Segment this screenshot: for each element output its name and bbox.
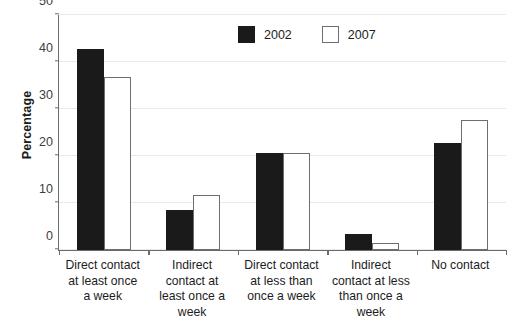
bar-group xyxy=(434,15,488,250)
bar-group xyxy=(77,15,131,250)
x-axis-label-2: Indirectcontact atleast once aweek xyxy=(147,258,236,320)
x-tick-mark xyxy=(59,250,60,255)
filled-square-icon xyxy=(238,26,255,43)
y-tick-label: 10 xyxy=(39,182,53,196)
bar-2002-3 xyxy=(256,153,283,250)
bar-2002-4 xyxy=(345,234,372,250)
bar-2007-5 xyxy=(461,120,488,250)
hollow-square-icon xyxy=(322,26,339,43)
bar-group xyxy=(345,15,399,250)
y-axis-title: Percentage xyxy=(18,0,36,250)
bar-2007-3 xyxy=(283,153,310,250)
bar-2007-4 xyxy=(372,243,399,250)
x-tick-mark xyxy=(506,250,507,255)
legend-label: 2007 xyxy=(348,28,376,42)
x-tick-mark xyxy=(238,250,239,255)
y-tick-label: 20 xyxy=(39,135,53,149)
bar-group xyxy=(256,15,310,250)
bars-layer xyxy=(59,15,506,250)
x-axis-label-5: No contact xyxy=(416,258,505,274)
legend: 20022007 xyxy=(238,26,376,43)
plot-area: 01020304050 xyxy=(58,15,506,251)
bar-2002-1 xyxy=(77,49,104,250)
x-axis-category-labels: Direct contactat least oncea weekIndirec… xyxy=(58,258,505,330)
bar-2007-2 xyxy=(193,195,220,250)
y-tick-label: 30 xyxy=(39,88,53,102)
x-axis-label-1: Direct contactat least oncea week xyxy=(58,258,147,305)
y-tick-label: 0 xyxy=(46,229,53,243)
bar-2002-5 xyxy=(434,143,461,250)
legend-item-2007[interactable]: 2007 xyxy=(322,26,376,43)
legend-label: 2002 xyxy=(264,28,292,42)
bar-group xyxy=(166,15,220,250)
bar-2002-2 xyxy=(166,210,193,250)
legend-item-2002[interactable]: 2002 xyxy=(238,26,292,43)
bar-2007-1 xyxy=(104,77,131,250)
bar-chart: Percentage 01020304050 Direct contactat … xyxy=(0,0,520,334)
y-tick-label: 50 xyxy=(39,0,53,8)
x-tick-mark xyxy=(148,250,149,255)
x-tick-mark xyxy=(417,250,418,255)
x-tick-mark xyxy=(327,250,328,255)
y-tick-label: 40 xyxy=(39,41,53,55)
x-axis-label-3: Direct contactat less thanonce a week xyxy=(237,258,326,305)
x-axis-label-4: Indirectcontact at lessthan once aweek xyxy=(326,258,415,320)
